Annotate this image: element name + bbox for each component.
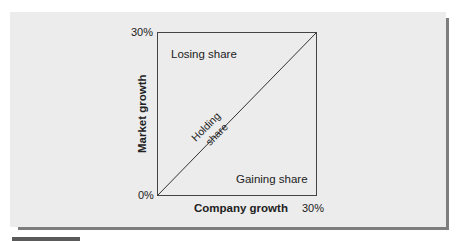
holding-share-label: Holding share <box>189 110 232 153</box>
share-growth-diagram: 30% 0% 30% Company growth Market growth … <box>0 0 460 241</box>
y-tick-30: 30% <box>131 26 153 38</box>
losing-share-label: Losing share <box>171 48 237 60</box>
origin-tick: 0% <box>138 189 154 201</box>
x-tick-30: 30% <box>302 202 324 214</box>
x-axis-label: Company growth <box>194 202 288 214</box>
y-axis-label: Market growth <box>136 74 148 153</box>
gaining-share-label: Gaining share <box>236 173 308 185</box>
